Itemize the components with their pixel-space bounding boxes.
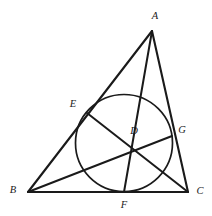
segment-cevian-af [124,31,152,192]
point-label-c: C [196,185,204,196]
point-label-g: G [178,124,186,135]
geometry-figure: A B C D E F G [0,0,212,216]
point-label-a: A [151,10,159,21]
point-label-b: B [10,184,17,195]
point-label-e: E [69,98,77,109]
geometry-canvas: A B C D E F G [0,0,212,216]
point-label-f: F [120,199,128,210]
point-label-d: D [129,125,138,136]
